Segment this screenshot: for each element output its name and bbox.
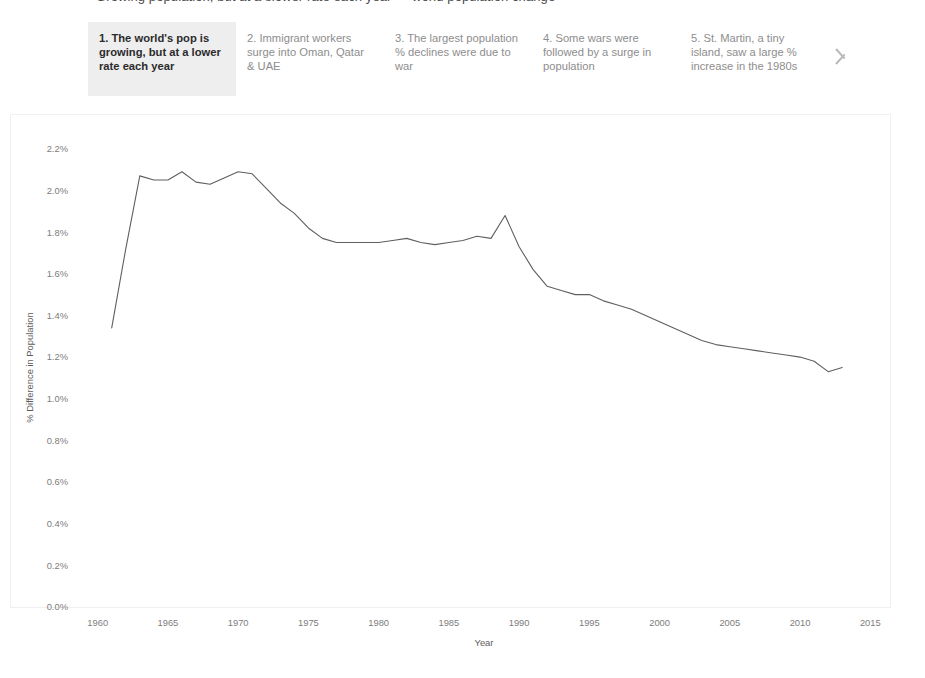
chart-svg: 0.0%0.2%0.4%0.6%0.8%1.0%1.2%1.4%1.6%1.8%… [0,104,925,678]
y-tick-label: 0.2% [47,560,68,571]
x-tick-label: 2000 [649,617,670,628]
y-tick-label: 0.0% [47,601,68,612]
x-tick-label: 1980 [368,617,389,628]
story-tab-strip: 1. The world's pop is growing, but at a … [0,22,925,96]
y-tick-label: 1.8% [47,227,68,238]
story-tab-5-label: 5. St. Martin, a tiny island, saw a larg… [691,32,797,72]
x-tick-label: 1985 [438,617,459,628]
x-axis-tick-labels: 1960196519701975198019851990199520002005… [87,617,881,628]
x-tick-label: 1970 [228,617,249,628]
x-tick-label: 2015 [860,617,881,628]
x-tick-label: 1965 [157,617,178,628]
x-tick-label: 1975 [298,617,319,628]
story-tab-2[interactable]: 2. Immigrant workers surge into Oman, Qa… [236,22,384,96]
x-tick-label: 1995 [579,617,600,628]
x-tick-label: 2005 [719,617,740,628]
y-tick-label: 1.2% [47,351,68,362]
story-tab-4-label: 4. Some wars were followed by a surge in… [543,32,651,72]
story-tab-1-label: 1. The world's pop is growing, but at a … [99,32,221,72]
clipped-page-title: Growing population, but at a slower rate… [0,0,925,12]
y-tick-label: 0.6% [47,476,68,487]
plot-background [11,115,891,608]
y-tick-label: 1.6% [47,268,68,279]
story-tab-4[interactable]: 4. Some wars were followed by a surge in… [532,22,680,96]
y-tick-label: 0.4% [47,518,68,529]
story-tab-1[interactable]: 1. The world's pop is growing, but at a … [88,22,236,96]
page-title-text: Growing population, but at a slower rate… [96,0,555,4]
population-growth-line-chart: 0.0%0.2%0.4%0.6%0.8%1.0%1.2%1.4%1.6%1.8%… [0,104,925,678]
story-tab-3-label: 3. The largest population % declines wer… [395,32,518,72]
y-tick-label: 2.0% [47,185,68,196]
x-tick-label: 1990 [509,617,530,628]
x-tick-label: 1960 [87,617,108,628]
x-axis-title: Year [475,637,494,648]
y-axis-title: % Difference in Population [24,312,35,422]
story-tab-5[interactable]: 5. St. Martin, a tiny island, saw a larg… [680,22,828,96]
story-tab-2-label: 2. Immigrant workers surge into Oman, Qa… [247,32,364,72]
x-tick-label: 2010 [790,617,811,628]
y-tick-label: 2.2% [47,143,68,154]
tab-strip-left-spacer [0,22,88,96]
story-tab-3[interactable]: 3. The largest population % declines wer… [384,22,532,96]
y-tick-label: 0.8% [47,435,68,446]
next-story-point-button[interactable] [828,22,868,96]
y-tick-label: 1.4% [47,310,68,321]
y-tick-label: 1.0% [47,393,68,404]
chevron-right-icon [836,44,849,66]
